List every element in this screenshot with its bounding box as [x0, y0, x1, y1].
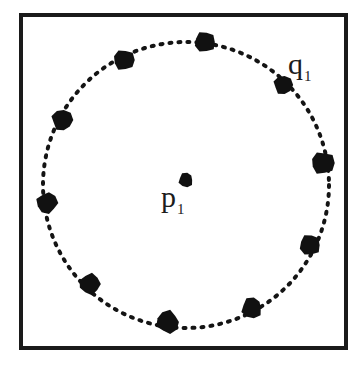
- label-p1-base: p: [161, 180, 176, 213]
- label-p1: p1: [161, 182, 184, 214]
- boundary-point: [36, 192, 58, 214]
- label-q1-subscript: 1: [304, 68, 312, 84]
- boundary-point: [80, 273, 101, 295]
- boundary-point: [51, 110, 73, 130]
- label-p1-subscript: 1: [177, 201, 185, 217]
- figure-container: p1 q1: [0, 0, 363, 372]
- boundary-point: [300, 235, 320, 254]
- label-q1: q1: [288, 49, 311, 81]
- boundary-point: [195, 32, 215, 51]
- boundary-point: [312, 152, 335, 173]
- boundary-point: [114, 50, 135, 69]
- boundary-point: [156, 310, 179, 334]
- label-q1-base: q: [288, 47, 303, 80]
